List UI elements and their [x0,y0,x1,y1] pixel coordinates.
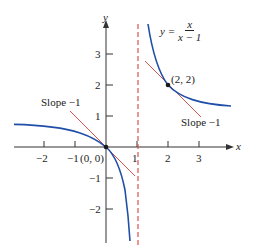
y-ticks [106,54,113,209]
y-tick-label: 1 [95,111,101,122]
equation-label: y = x x − 1 [160,18,201,43]
x-axis-label: x [236,141,241,152]
slope-annotation-left: Slope −1 [41,97,81,108]
y-tick-label: 3 [95,49,101,60]
slope-annotation-right: Slope −1 [181,117,221,128]
x-tick-label: 2 [165,153,171,164]
equation-denominator: x − 1 [178,31,201,43]
x-tick-label: 1 [132,153,138,164]
x-axis [14,144,234,150]
equation-lhs: y = [160,25,175,37]
y-tick-label: 2 [95,80,101,91]
x-tick-label: −1 [67,153,79,164]
y-tick-label: −1 [89,173,101,184]
y-axis [103,20,109,243]
point-origin [104,145,109,150]
point-label-2-2: (2, 2) [171,74,195,85]
point-2-2 [166,83,171,88]
y-tick-label: −2 [89,204,101,215]
x-tick-label: −2 [36,153,48,164]
x-ticks [44,141,199,147]
equation-numerator: x [185,18,194,31]
point-label-origin: (0, 0) [80,153,104,164]
curve-left-branch [14,124,130,241]
y-axis-label: y [103,12,108,23]
x-tick-label: 3 [196,153,202,164]
